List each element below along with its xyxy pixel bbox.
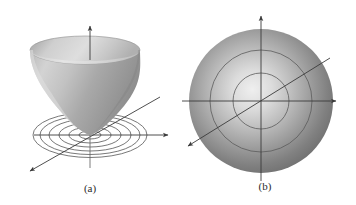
- panel-a-caption: (a): [84, 182, 97, 195]
- panel-b: (b): [182, 16, 336, 193]
- paraboloid-level-curves-figure: (a) (b): [0, 0, 356, 205]
- panel-a: (a): [30, 26, 168, 195]
- panel-b-caption: (b): [259, 180, 272, 193]
- figure-container: (a) (b): [0, 0, 356, 205]
